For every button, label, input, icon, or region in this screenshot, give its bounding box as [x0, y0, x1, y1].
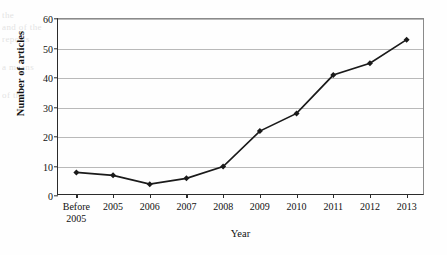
x-tick-label: 2008 [213, 201, 233, 213]
x-tick-label: 2007 [176, 201, 196, 213]
y-axis-title: Number of articles [15, 14, 26, 134]
y-tick-label: 50 [43, 43, 53, 54]
y-tick-label: 60 [43, 14, 53, 25]
x-tick-label: Before2005 [63, 201, 90, 224]
series-polyline [76, 40, 406, 185]
scan-bleed-text: the [2, 10, 14, 20]
y-tick-label: 10 [43, 161, 53, 172]
data-point-marker [147, 181, 153, 187]
data-point-marker [110, 172, 116, 178]
x-axis-title: Year [57, 228, 424, 239]
x-tick-label: 2005 [103, 201, 123, 213]
y-tick-label: 20 [43, 132, 53, 143]
x-tick-label: 2013 [397, 201, 417, 213]
x-tick-label: 2009 [250, 201, 270, 213]
series-line [58, 19, 425, 196]
y-tick-label: 40 [43, 73, 53, 84]
y-tick-label: 0 [48, 191, 53, 202]
data-point-marker [183, 175, 189, 181]
plot-area: 0102030405060 Before20052005200620072008… [57, 18, 424, 195]
x-tick-label: 2011 [323, 201, 343, 213]
x-tick-label: 2006 [140, 201, 160, 213]
line-chart-figure: the and of the reports a means of the Nu… [0, 0, 447, 255]
x-tick-label: 2012 [360, 201, 380, 213]
data-point-marker [73, 169, 79, 175]
y-tick-label: 30 [43, 102, 53, 113]
x-tick-label: 2010 [287, 201, 307, 213]
